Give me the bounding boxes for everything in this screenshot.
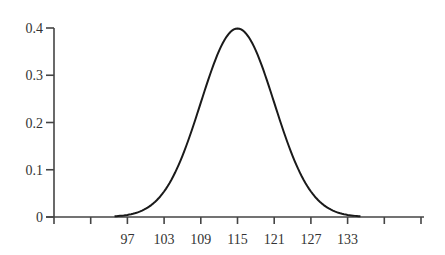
y-tick-label: 0.4	[26, 21, 44, 36]
x-axis	[46, 217, 424, 224]
y-axis	[46, 28, 54, 224]
density-curve	[115, 29, 361, 217]
y-tick-label: 0.2	[26, 116, 44, 131]
y-tick-label: 0.1	[26, 163, 44, 178]
x-tick-label: 127	[300, 232, 321, 247]
y-tick-label: 0	[36, 210, 43, 225]
x-tick-label: 115	[227, 232, 247, 247]
x-tick-label: 97	[120, 232, 134, 247]
x-axis-labels: 97103109115121127133	[120, 232, 358, 247]
y-tick-label: 0.3	[26, 68, 44, 83]
x-tick-label: 133	[337, 232, 358, 247]
y-axis-labels: 00.10.20.30.4	[26, 21, 44, 225]
x-tick-label: 103	[154, 232, 175, 247]
normal-distribution-chart: 00.10.20.30.4 97103109115121127133	[0, 0, 445, 255]
x-tick-label: 109	[190, 232, 211, 247]
x-tick-label: 121	[264, 232, 285, 247]
